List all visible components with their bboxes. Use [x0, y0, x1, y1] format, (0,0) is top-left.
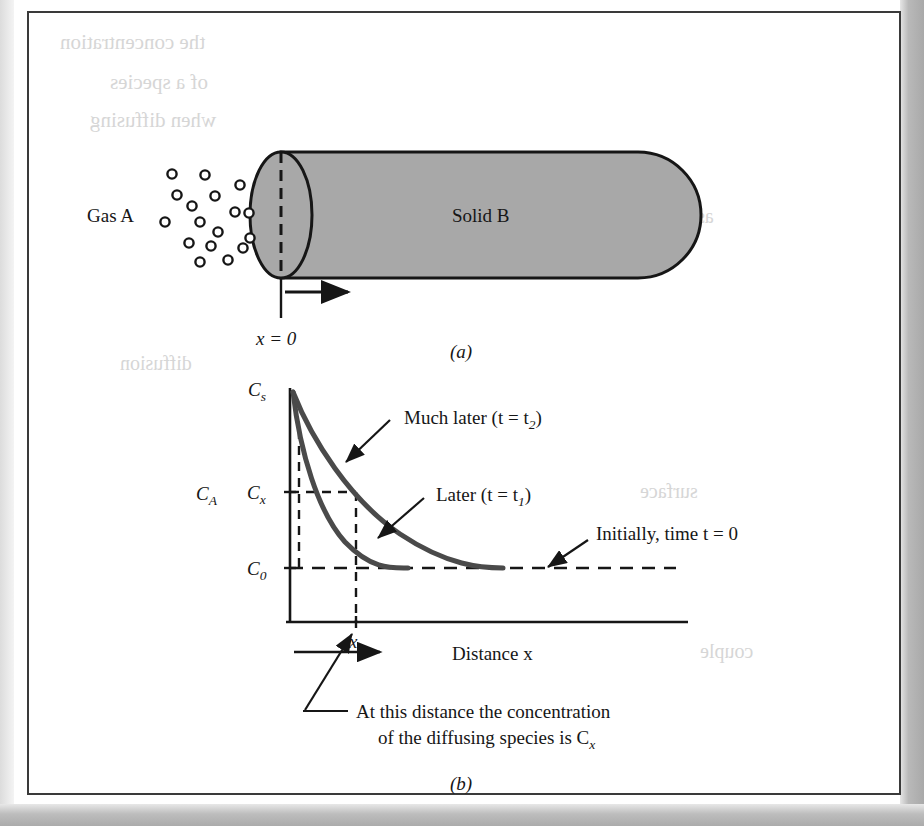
initially-leader: [548, 540, 588, 567]
gas-molecule: [200, 170, 209, 179]
figure-page: the concentration of a species when diff…: [0, 0, 924, 826]
y-tick-label-cs: Cs: [248, 379, 266, 404]
gas-molecule: [238, 243, 247, 252]
gas-molecule: [223, 255, 232, 264]
gas-molecule: [206, 241, 215, 250]
panel-b: CA Cs Cx C0 x Much later (t = t2) Later …: [196, 379, 738, 795]
diffusion-figure: Gas A Solid B x = 0 (a): [0, 0, 924, 826]
much-later-leader: [346, 420, 390, 462]
gas-molecule: [184, 238, 193, 247]
origin-label: x = 0: [255, 328, 297, 349]
distance-annotation-line2: of the diffusing species is Cx: [378, 727, 595, 752]
gas-molecule: [172, 190, 181, 199]
curve-label-much-later: Much later (t = t2): [404, 407, 542, 432]
gas-molecule: [195, 217, 204, 226]
gas-molecule: [195, 257, 204, 266]
gas-a-label: Gas A: [87, 205, 134, 226]
curve-label-later: Later (t = t1): [436, 484, 531, 509]
gas-molecule: [160, 217, 169, 226]
gas-molecule: [230, 207, 239, 216]
y-tick-label-cx: Cx: [247, 482, 266, 507]
gas-molecule-cloud: [160, 169, 254, 266]
x-axis-label: Distance x: [452, 643, 533, 664]
y-tick-label-c0: C0: [247, 558, 267, 583]
solid-b-label: Solid B: [452, 205, 510, 226]
gas-molecule: [210, 191, 219, 200]
gas-molecule: [244, 208, 253, 217]
gas-molecule: [245, 233, 254, 242]
curve-label-initially: Initially, time t = 0: [596, 523, 738, 544]
gas-molecule: [235, 180, 244, 189]
y-axis-label: CA: [196, 483, 218, 508]
annotation-leader-diagonal: [305, 634, 352, 710]
panel-a: Gas A Solid B x = 0 (a): [87, 152, 701, 363]
distance-annotation-line1: At this distance the concentration: [356, 701, 611, 722]
gas-molecule: [213, 227, 222, 236]
gas-molecule: [167, 169, 176, 178]
curve-later-t1: [293, 392, 408, 568]
x-tick-label: x: [348, 631, 358, 652]
gas-molecule: [187, 201, 196, 210]
panel-b-caption: (b): [450, 773, 472, 795]
panel-a-caption: (a): [450, 341, 472, 363]
